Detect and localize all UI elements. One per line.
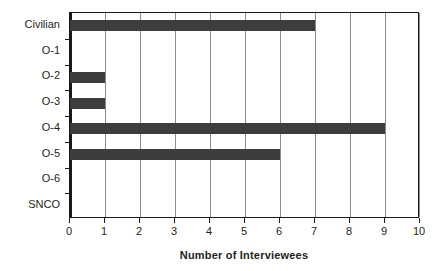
x-axis: 012345678910	[69, 218, 419, 248]
y-tick	[65, 193, 70, 194]
y-tick-label-o-2: O-2	[0, 69, 60, 81]
x-axis-title: Number of Interviewees	[69, 249, 419, 261]
x-tick-label-4: 4	[197, 225, 221, 237]
x-tick-label-10: 10	[407, 225, 431, 237]
x-tick-9	[384, 218, 385, 223]
x-tick-label-1: 1	[92, 225, 116, 237]
y-tick-label-o-6: O-6	[0, 172, 60, 184]
x-tick-5	[244, 218, 245, 223]
y-tick-label-o-4: O-4	[0, 121, 60, 133]
x-tick-label-5: 5	[232, 225, 256, 237]
y-tick	[65, 116, 70, 117]
y-tick	[65, 65, 70, 66]
x-tick-10	[419, 218, 420, 223]
y-tick-label-o-5: O-5	[0, 147, 60, 159]
x-tick-6	[279, 218, 280, 223]
x-tick-4	[209, 218, 210, 223]
x-tick-label-9: 9	[372, 225, 396, 237]
plot-area	[69, 12, 419, 218]
bar-o-2	[70, 72, 105, 83]
x-tick-label-0: 0	[57, 225, 81, 237]
bar-o-4	[70, 123, 385, 134]
x-tick-0	[69, 218, 70, 223]
y-tick	[65, 142, 70, 143]
x-tick-label-7: 7	[302, 225, 326, 237]
y-tick	[65, 168, 70, 169]
y-tick-label-o-3: O-3	[0, 95, 60, 107]
bar-civilian	[70, 20, 315, 31]
y-tick	[65, 39, 70, 40]
x-tick-7	[314, 218, 315, 223]
bar-row	[70, 193, 418, 219]
y-axis-tick-labels: CivilianO-1O-2O-3O-4O-5O-6SNCO	[0, 0, 65, 271]
bar-row	[70, 142, 418, 168]
bar-row	[70, 65, 418, 91]
bar-o-5	[70, 149, 280, 160]
y-tick-label-snco: SNCO	[0, 198, 60, 210]
x-tick-label-8: 8	[337, 225, 361, 237]
x-tick-label-6: 6	[267, 225, 291, 237]
gridline-x-10	[419, 13, 420, 217]
x-tick-1	[104, 218, 105, 223]
x-tick-3	[174, 218, 175, 223]
bar-chart: Rank CivilianO-1O-2O-3O-4O-5O-6SNCO 0123…	[0, 0, 439, 271]
bar-row	[70, 116, 418, 142]
bar-row	[70, 168, 418, 194]
bar-o-3	[70, 98, 105, 109]
y-tick-label-o-1: O-1	[0, 44, 60, 56]
x-tick-label-2: 2	[127, 225, 151, 237]
bar-row	[70, 39, 418, 65]
x-tick-8	[349, 218, 350, 223]
x-tick-2	[139, 218, 140, 223]
y-tick	[65, 90, 70, 91]
bar-row	[70, 13, 418, 39]
x-tick-label-3: 3	[162, 225, 186, 237]
bar-row	[70, 90, 418, 116]
y-tick-label-civilian: Civilian	[0, 18, 60, 30]
